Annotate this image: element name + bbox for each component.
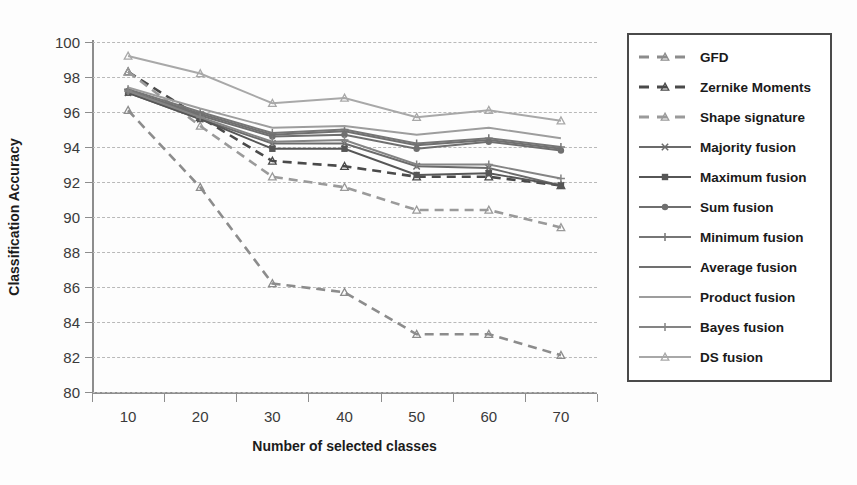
data-point-plus <box>413 161 421 169</box>
x-tick <box>308 394 309 402</box>
data-point-plus <box>413 140 421 148</box>
legend-label: Zernike Moments <box>700 80 811 95</box>
data-point-triangle <box>341 288 349 295</box>
data-point-triangle <box>124 106 132 113</box>
y-tick-label: 80 <box>63 384 80 401</box>
data-point-circle <box>662 204 668 210</box>
legend-swatch <box>637 140 693 154</box>
y-tick-label: 94 <box>63 139 80 156</box>
x-tick <box>381 394 382 402</box>
legend-item-shape-signature[interactable]: Shape signature <box>637 102 824 132</box>
x-axis-title: Number of selected classes <box>92 438 597 454</box>
legend-item-average-fusion[interactable]: Average fusion <box>637 252 824 282</box>
data-point-plus <box>557 175 565 183</box>
y-tick-label: 92 <box>63 174 80 191</box>
x-tick-label: 30 <box>264 408 281 425</box>
legend-item-sum-fusion[interactable]: Sum fusion <box>637 192 824 222</box>
y-tick-label: 84 <box>63 314 80 331</box>
legend-label: DS fusion <box>700 350 763 365</box>
y-tick <box>85 392 93 393</box>
data-point-square <box>486 170 492 176</box>
legend-item-minimum-fusion[interactable]: Minimum fusion <box>637 222 824 252</box>
y-tick-label: 98 <box>63 69 80 86</box>
y-tick-label: 100 <box>55 34 80 51</box>
legend-item-bayes-fusion[interactable]: Bayes fusion <box>637 312 824 342</box>
x-tick-label: 20 <box>192 408 209 425</box>
x-tick-label: 50 <box>408 408 425 425</box>
data-point-plus <box>661 233 669 241</box>
x-tick <box>525 394 526 402</box>
legend-label: Shape signature <box>700 110 805 125</box>
legend-label: Average fusion <box>700 260 797 275</box>
legend-swatch <box>637 170 693 184</box>
x-tick <box>236 394 237 402</box>
x-tick <box>597 394 598 402</box>
legend-swatch <box>637 290 693 304</box>
legend-swatch <box>637 50 693 64</box>
chart-canvas: 10098969492908886848280 10203040506070 N… <box>0 0 857 485</box>
legend-label: Minimum fusion <box>700 230 804 245</box>
data-point-square <box>662 174 668 180</box>
legend-swatch <box>637 110 693 124</box>
data-point-square <box>341 146 347 152</box>
legend-item-zernike-moments[interactable]: Zernike Moments <box>637 72 824 102</box>
x-tick <box>453 394 454 402</box>
legend-item-ds-fusion[interactable]: DS fusion <box>637 342 824 372</box>
y-tick-label: 82 <box>63 349 80 366</box>
legend-item-maximum-fusion[interactable]: Maximum fusion <box>637 162 824 192</box>
legend: GFDZernike MomentsShape signatureMajorit… <box>627 33 832 382</box>
legend-swatch <box>637 350 693 364</box>
legend-label: Sum fusion <box>700 200 774 215</box>
legend-label: Product fusion <box>700 290 795 305</box>
legend-label: GFD <box>700 50 729 65</box>
plot-area: 10098969492908886848280 <box>92 42 597 392</box>
data-point-square <box>558 182 564 188</box>
gridline <box>92 392 597 393</box>
x-tick-label: 60 <box>480 408 497 425</box>
x-tick-label: 40 <box>336 408 353 425</box>
y-tick-label: 90 <box>63 209 80 226</box>
x-tick <box>164 394 165 402</box>
x-tick-label: 10 <box>120 408 137 425</box>
data-point-triangle <box>413 206 421 213</box>
legend-item-product-fusion[interactable]: Product fusion <box>637 282 824 312</box>
y-tick-label: 86 <box>63 279 80 296</box>
x-tick-label: 70 <box>553 408 570 425</box>
y-axis-title: Classification Accuracy <box>6 138 22 295</box>
legend-swatch <box>637 320 693 334</box>
legend-label: Bayes fusion <box>700 320 784 335</box>
data-point-plus <box>268 138 276 146</box>
data-point-triangle <box>124 68 132 75</box>
legend-swatch <box>637 230 693 244</box>
legend-item-gfd[interactable]: GFD <box>637 42 824 72</box>
legend-label: Majority fusion <box>700 140 796 155</box>
legend-swatch <box>637 200 693 214</box>
legend-item-majority-fusion[interactable]: Majority fusion <box>637 132 824 162</box>
y-tick-label: 88 <box>63 244 80 261</box>
legend-swatch <box>637 80 693 94</box>
x-axis-ticks: 10203040506070 <box>92 394 597 434</box>
legend-swatch <box>637 260 693 274</box>
legend-label: Maximum fusion <box>700 170 807 185</box>
x-tick <box>92 394 93 402</box>
data-point-square <box>413 172 419 178</box>
series-lines <box>92 42 597 392</box>
data-point-square <box>269 146 275 152</box>
y-tick-label: 96 <box>63 104 80 121</box>
data-point-plus <box>661 323 669 331</box>
